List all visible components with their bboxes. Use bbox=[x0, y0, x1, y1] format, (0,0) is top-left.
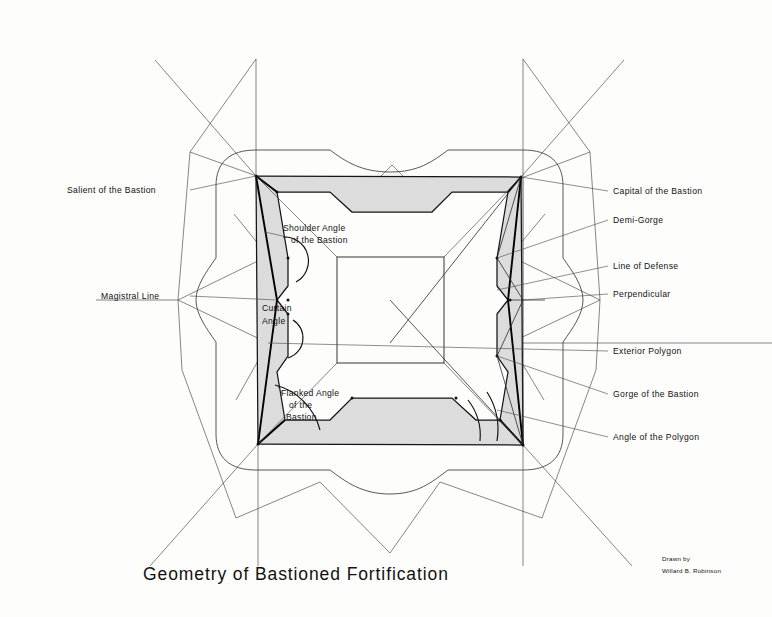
label-demi-gorge: Demi-Gorge bbox=[613, 215, 663, 225]
label-flanked-angle-line1: Flanked Angle bbox=[281, 388, 339, 398]
label-exterior-polygon: Exterior Polygon bbox=[613, 346, 682, 356]
label-perpendicular: Perpendicular bbox=[613, 289, 671, 299]
label-flanked-angle-line2: of the bbox=[289, 400, 312, 410]
label-flanked-angle-line3: Bastion bbox=[286, 412, 317, 422]
fortification-drawing: Salient of the Bastion Magistral Line Ca… bbox=[0, 0, 772, 617]
label-shoulder-angle-line2: of the Bastion bbox=[291, 235, 348, 245]
credit-line-2: Willard B. Robinson bbox=[662, 567, 721, 574]
fortification-plate: Salient of the Bastion Magistral Line Ca… bbox=[0, 0, 772, 617]
label-capital-of-the-bastion: Capital of the Bastion bbox=[613, 186, 702, 196]
label-gorge-of-the-bastion: Gorge of the Bastion bbox=[613, 389, 699, 399]
rampart-body bbox=[0, 0, 523, 445]
label-salient-of-the-bastion: Salient of the Bastion bbox=[67, 185, 156, 195]
label-angle-of-the-polygon: Angle of the Polygon bbox=[613, 432, 699, 442]
label-curtain-angle-line2: Angle bbox=[262, 316, 285, 326]
page-title: Geometry of Bastioned Fortification bbox=[143, 564, 449, 584]
inner-courtyard bbox=[337, 257, 444, 363]
label-curtain-angle-line1: Curtain bbox=[262, 303, 292, 313]
label-shoulder-angle-line1: Shoulder Angle bbox=[283, 223, 346, 233]
label-line-of-defense: Line of Defense bbox=[613, 261, 678, 271]
credit-line-1: Drawn by bbox=[662, 555, 691, 562]
label-magistral-line: Magistral Line bbox=[101, 291, 159, 301]
